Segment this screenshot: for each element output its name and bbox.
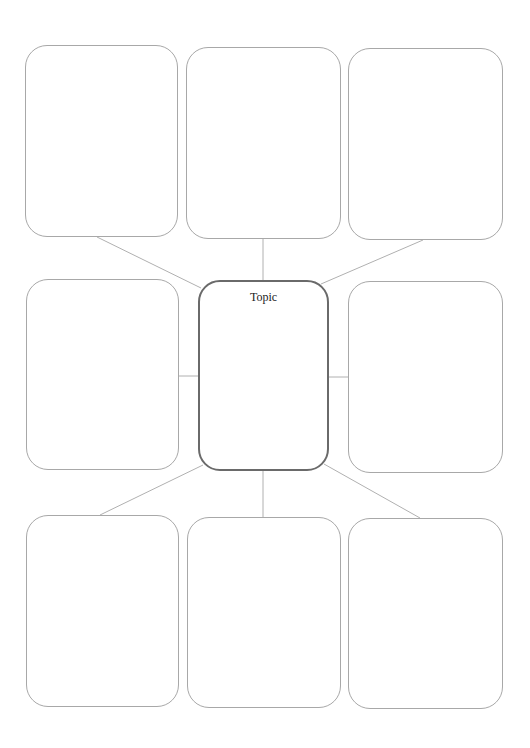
topic-label: Topic bbox=[200, 290, 327, 305]
connector-top-right bbox=[321, 240, 423, 284]
box-bottom-right[interactable] bbox=[348, 518, 503, 709]
box-middle-left[interactable] bbox=[26, 279, 179, 470]
connector-bottom-left bbox=[100, 465, 203, 515]
center-topic-box[interactable]: Topic bbox=[198, 280, 329, 471]
box-middle-right[interactable] bbox=[348, 281, 503, 473]
box-top-middle[interactable] bbox=[186, 47, 341, 239]
box-bottom-left[interactable] bbox=[26, 515, 179, 707]
box-bottom-middle[interactable] bbox=[187, 517, 341, 708]
box-top-right[interactable] bbox=[348, 48, 503, 240]
box-top-left[interactable] bbox=[25, 45, 178, 237]
